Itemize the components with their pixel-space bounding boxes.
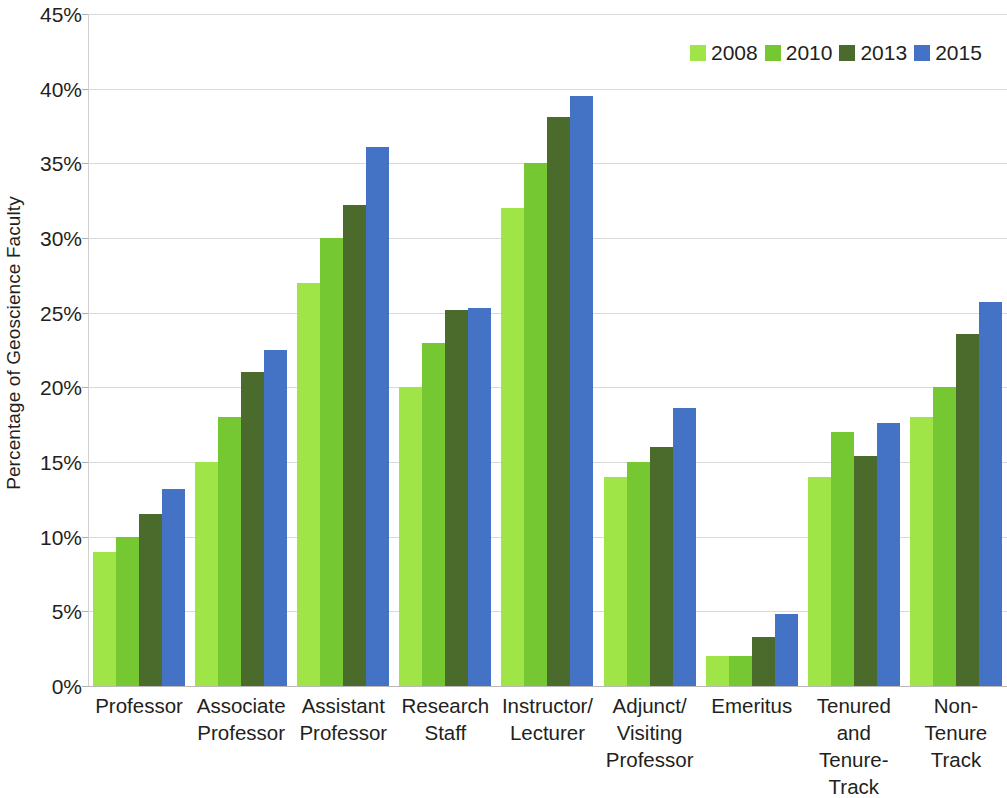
x-axis-labels: ProfessorAssociate ProfessorAssistant Pr… — [88, 692, 1007, 798]
bar — [399, 387, 422, 686]
bar — [547, 117, 570, 686]
bar — [627, 462, 650, 686]
x-axis-label: Instructor/ Lecturer — [496, 692, 598, 798]
bar — [910, 417, 933, 686]
legend-label: 2008 — [711, 42, 758, 63]
bar — [116, 537, 139, 686]
bar — [877, 423, 900, 686]
legend: 2008201020132015 — [690, 42, 982, 63]
legend-item: 2015 — [914, 42, 982, 63]
bar — [343, 205, 366, 686]
y-axis-tick-mark — [82, 686, 88, 687]
x-axis-label: Emeritus — [701, 692, 803, 798]
y-axis-tick-label: 15% — [10, 452, 82, 473]
bar — [264, 350, 287, 686]
x-axis-label: Non- Tenure Track — [905, 692, 1007, 798]
bar-group — [803, 14, 905, 686]
bar — [604, 477, 627, 686]
y-axis-tick-label: 10% — [10, 526, 82, 547]
y-axis-tick-label: 35% — [10, 153, 82, 174]
bar-chart: Percentage of Geoscience Faculty 45%40%3… — [0, 0, 1007, 798]
bar — [524, 163, 547, 686]
bar-group — [905, 14, 1007, 686]
legend-label: 2015 — [935, 42, 982, 63]
bar — [93, 552, 116, 686]
legend-label: 2010 — [786, 42, 833, 63]
y-axis-tick-label: 25% — [10, 302, 82, 323]
bar-group — [496, 14, 598, 686]
y-axis-tick-label: 0% — [10, 676, 82, 697]
bar — [979, 302, 1002, 686]
bar — [501, 208, 524, 686]
bar-group — [701, 14, 803, 686]
x-axis-label: Associate Professor — [190, 692, 292, 798]
bar — [808, 477, 831, 686]
bar — [570, 96, 593, 686]
x-axis-label: Research Staff — [394, 692, 496, 798]
bar — [933, 387, 956, 686]
bar — [775, 614, 798, 686]
bar — [706, 656, 729, 686]
bar — [956, 334, 979, 686]
x-axis-label: Professor — [88, 692, 190, 798]
x-axis-label: Tenured and Tenure-Track — [803, 692, 905, 798]
bar — [445, 310, 468, 686]
bar — [468, 308, 491, 686]
legend-swatch-icon — [690, 45, 706, 61]
y-axis-tick-label: 5% — [10, 601, 82, 622]
bar — [195, 462, 218, 686]
legend-item: 2008 — [690, 42, 758, 63]
bar-group — [599, 14, 701, 686]
bar — [854, 456, 877, 686]
bar — [162, 489, 185, 686]
bar — [366, 147, 389, 686]
legend-label: 2013 — [860, 42, 907, 63]
x-axis-line — [88, 686, 1007, 687]
y-axis-tick-label: 30% — [10, 228, 82, 249]
x-axis-label: Adjunct/ Visiting Professor — [599, 692, 701, 798]
bar — [241, 372, 264, 686]
bar — [218, 417, 241, 686]
x-axis-label: Assistant Professor — [292, 692, 394, 798]
bar — [139, 514, 162, 686]
bar-group — [394, 14, 496, 686]
bar — [752, 637, 775, 686]
bar-groups — [88, 14, 1007, 686]
bar — [297, 283, 320, 686]
bar-group — [292, 14, 394, 686]
bar — [673, 408, 696, 686]
y-axis-tick-label: 40% — [10, 78, 82, 99]
bar — [320, 238, 343, 686]
bar-group — [88, 14, 190, 686]
y-axis-ticks: 45%40%35%30%25%20%15%10%5%0% — [0, 0, 82, 798]
legend-item: 2010 — [765, 42, 833, 63]
y-axis-tick-label: 45% — [10, 4, 82, 25]
bar — [729, 656, 752, 686]
bar — [831, 432, 854, 686]
legend-swatch-icon — [765, 45, 781, 61]
y-axis-tick-label: 20% — [10, 377, 82, 398]
bar — [422, 343, 445, 686]
legend-swatch-icon — [839, 45, 855, 61]
legend-item: 2013 — [839, 42, 907, 63]
bar-group — [190, 14, 292, 686]
bar — [650, 447, 673, 686]
legend-swatch-icon — [914, 45, 930, 61]
